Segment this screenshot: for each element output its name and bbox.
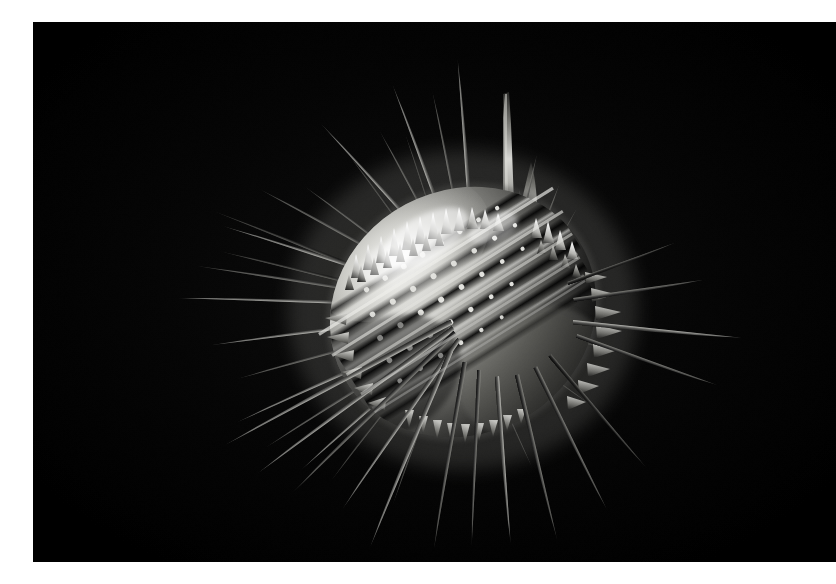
page-margin-bottom	[0, 562, 836, 584]
micrograph-image	[33, 22, 836, 562]
page-margin-top	[0, 0, 836, 22]
page-canvas: Scanning electron micrograph of a spiny …	[0, 0, 836, 584]
sem-micrograph-plate	[33, 22, 836, 562]
page-margin-left	[0, 0, 33, 584]
film-grain	[33, 22, 836, 562]
